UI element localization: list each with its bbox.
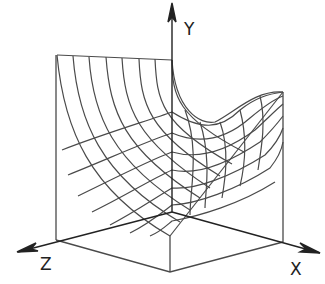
diagram-canvas: Y Z X — [0, 0, 325, 284]
surface-diagram: Y Z X — [0, 0, 325, 284]
x-axis — [172, 212, 320, 253]
z-axis — [18, 212, 172, 252]
x-axis-label: X — [290, 259, 302, 279]
z-axis-label: Z — [40, 254, 52, 274]
y-axis-label: Y — [183, 19, 195, 39]
surface-mesh — [57, 55, 283, 236]
